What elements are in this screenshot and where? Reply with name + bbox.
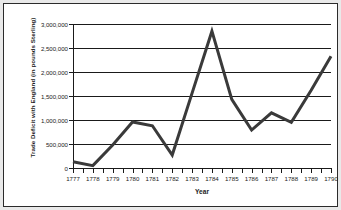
x-tick-mark (232, 168, 233, 173)
x-tick-mark (152, 168, 153, 173)
x-tick-label: 1778 (86, 175, 100, 182)
x-tick-label: 1781 (146, 175, 160, 182)
x-tick-mark-minor (242, 168, 243, 173)
x-tick-mark (93, 168, 94, 173)
chart-border: Trade Deficit with England (in pounds St… (3, 3, 338, 207)
y-tick-label: 1,500,000 (41, 93, 68, 100)
x-tick-mark-minor (83, 168, 84, 173)
x-tick-mark-minor (162, 168, 163, 173)
plot-area: 0500,0001,000,0001,500,0002,000,0002,500… (73, 24, 331, 168)
x-tick-mark (192, 168, 193, 173)
x-tick-label: 1786 (245, 175, 259, 182)
x-tick-mark-minor (182, 168, 183, 173)
x-tick-label: 1788 (285, 175, 299, 182)
x-tick-mark-minor (142, 168, 143, 173)
x-tick-mark-minor (103, 168, 104, 173)
x-tick-mark-minor (222, 168, 223, 173)
x-tick-label: 1784 (205, 175, 219, 182)
y-tick-label: 2,000,000 (41, 69, 68, 76)
chart-figure: Trade Deficit with England (in pounds St… (0, 0, 341, 210)
x-tick-mark-minor (321, 168, 322, 173)
data-series-line (73, 24, 331, 168)
x-tick-label: 1787 (265, 175, 279, 182)
x-tick-mark-minor (262, 168, 263, 173)
x-tick-mark (212, 168, 213, 173)
x-tick-label: 1780 (126, 175, 140, 182)
x-tick-mark (73, 168, 74, 173)
x-tick-mark (113, 168, 114, 173)
y-axis-title: Trade Deficit with England (in pounds St… (29, 8, 36, 168)
x-tick-mark (331, 168, 332, 173)
x-axis-title: Year (73, 188, 331, 195)
y-tick-label: 2,500,000 (41, 45, 68, 52)
x-tick-mark-minor (281, 168, 282, 173)
x-tick-mark (291, 168, 292, 173)
x-tick-mark (252, 168, 253, 173)
x-tick-label: 1782 (165, 175, 179, 182)
x-tick-mark (133, 168, 134, 173)
y-tick-label: 1,000,000 (41, 117, 68, 124)
x-tick-label: 1790 (324, 175, 338, 182)
x-tick-label: 1779 (106, 175, 120, 182)
y-tick-label: 0 (65, 165, 68, 172)
x-tick-mark (311, 168, 312, 173)
y-tick-label: 3,000,000 (41, 21, 68, 28)
x-tick-mark-minor (202, 168, 203, 173)
x-tick-mark (271, 168, 272, 173)
x-tick-mark (172, 168, 173, 173)
x-tick-mark-minor (123, 168, 124, 173)
x-tick-label: 1777 (66, 175, 80, 182)
x-tick-label: 1783 (185, 175, 199, 182)
x-tick-label: 1785 (225, 175, 239, 182)
y-tick-label: 500,000 (46, 141, 68, 148)
x-tick-label: 1789 (304, 175, 318, 182)
x-tick-mark-minor (301, 168, 302, 173)
